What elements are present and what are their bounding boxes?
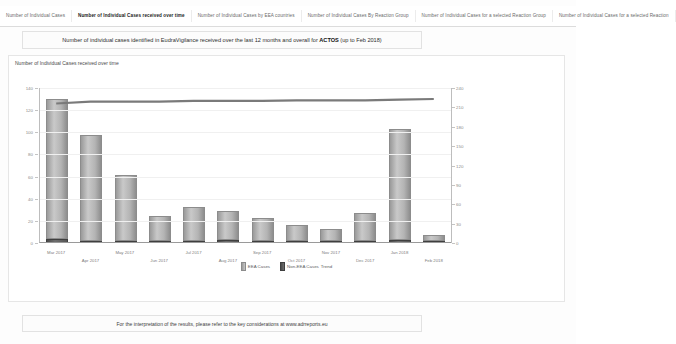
right-axis-tick-mark xyxy=(452,166,455,167)
right-axis-tick-label: 180 xyxy=(456,124,478,129)
grid-line xyxy=(40,221,451,222)
left-axis-tick-label: 60 xyxy=(13,174,33,179)
page-title-prefix: Number of individual cases identified in… xyxy=(62,37,319,43)
bar-non-eea-cases[interactable] xyxy=(423,241,445,243)
legend-label-trend: Trend xyxy=(321,264,332,269)
bar-eea-cases[interactable] xyxy=(46,99,68,239)
left-axis-tick-mark xyxy=(35,221,38,222)
grid-line xyxy=(40,132,451,133)
right-axis-tick-label: 90 xyxy=(456,182,478,187)
bar-non-eea-cases[interactable] xyxy=(320,241,342,243)
right-axis-tick-label: 120 xyxy=(456,163,478,168)
right-axis-tick-label: 150 xyxy=(456,144,478,149)
grid-line xyxy=(40,177,451,178)
bar-eea-cases[interactable] xyxy=(389,129,411,240)
footer-note: For the interpretation of the results, p… xyxy=(117,321,328,327)
bar-eea-cases[interactable] xyxy=(80,135,102,240)
right-axis-tick-mark xyxy=(452,204,455,205)
left-axis-tick-mark xyxy=(35,110,38,111)
legend-swatch-eea-icon xyxy=(241,262,246,271)
bar-non-eea-cases[interactable] xyxy=(286,241,308,243)
left-axis-tick-label: 80 xyxy=(13,152,33,157)
right-axis-tick-label: 60 xyxy=(456,202,478,207)
bar-non-eea-cases[interactable] xyxy=(46,239,68,242)
right-axis-tick-label: 240 xyxy=(456,86,478,91)
bar-non-eea-cases[interactable] xyxy=(252,241,274,243)
page-title-product: ACTOS xyxy=(319,37,338,43)
right-axis-tick-mark xyxy=(452,107,455,108)
tab-cases-received-over-time[interactable]: Number of Individual Cases received over… xyxy=(72,10,192,21)
right-axis-tick-mark xyxy=(452,127,455,128)
legend-label-eea: EEA Cases xyxy=(248,264,270,269)
bar-eea-cases[interactable] xyxy=(183,207,205,240)
x-axis-tick-label: May 2017 xyxy=(115,250,134,255)
grid-line xyxy=(40,110,451,111)
right-axis-tick-mark xyxy=(452,88,455,89)
bar-non-eea-cases[interactable] xyxy=(389,240,411,242)
x-axis-tick-label: Nov 2017 xyxy=(322,250,340,255)
x-axis-tick-label: Jan 2018 xyxy=(391,250,409,255)
chart-subtitle: Number of Individual Cases received over… xyxy=(15,60,119,66)
right-axis-tick-mark xyxy=(452,185,455,186)
legend-swatch-non-eea-icon xyxy=(280,262,285,271)
bar-non-eea-cases[interactable] xyxy=(149,241,171,243)
page-title: Number of individual cases identified in… xyxy=(62,37,381,43)
right-axis-tick-label: 30 xyxy=(456,221,478,226)
x-axis-tick-label: Sep 2017 xyxy=(253,250,271,255)
bar-eea-cases[interactable] xyxy=(217,211,239,240)
tab-cases-selected-reaction[interactable]: Number of Individual Cases for a selecte… xyxy=(553,10,676,21)
legend-item-non-eea: Non-EEA Cases Trend xyxy=(280,262,332,271)
right-axis-tick-mark xyxy=(452,243,455,244)
right-axis-tick-mark xyxy=(452,146,455,147)
left-axis-tick-label: 0 xyxy=(13,241,33,246)
left-axis-tick-label: 20 xyxy=(13,218,33,223)
left-axis-tick-label: 120 xyxy=(13,108,33,113)
chart-panel: Number of Individual Cases received over… xyxy=(8,55,565,302)
tab-cases-by-reaction-group[interactable]: Number of Individual Cases By Reaction G… xyxy=(302,10,416,21)
bar-non-eea-cases[interactable] xyxy=(80,241,102,243)
left-axis-tick-mark xyxy=(35,177,38,178)
page-title-banner: Number of individual cases identified in… xyxy=(22,31,422,49)
bar-eea-cases[interactable] xyxy=(149,216,171,240)
left-axis-tick-label: 140 xyxy=(13,86,33,91)
left-axis-tick-label: 40 xyxy=(13,196,33,201)
left-axis-tick-mark xyxy=(35,243,38,244)
bar-eea-cases[interactable] xyxy=(354,213,376,241)
bar-eea-cases[interactable] xyxy=(115,175,137,240)
tab-bar: Number of Individual Cases Number of Ind… xyxy=(0,6,576,27)
grid-line xyxy=(40,199,451,200)
plot-canvas xyxy=(39,88,451,243)
bar-non-eea-cases[interactable] xyxy=(217,240,239,242)
tab-number-of-individual-cases[interactable]: Number of Individual Cases xyxy=(0,10,72,21)
bar-eea-cases[interactable] xyxy=(286,225,308,241)
bar-eea-cases[interactable] xyxy=(320,229,342,240)
plot-area: 020406080100120140 030609012015018021024… xyxy=(9,74,564,274)
legend-label-non-eea: Non-EEA Cases xyxy=(287,264,319,269)
right-axis-tick-label: 0 xyxy=(456,241,478,246)
tab-cases-by-eea-countries[interactable]: Number of Individual Cases by EEA countr… xyxy=(192,10,302,21)
grid-line xyxy=(40,88,451,89)
left-axis-tick-mark xyxy=(35,199,38,200)
bar-non-eea-cases[interactable] xyxy=(354,241,376,243)
left-axis-tick-mark xyxy=(35,132,38,133)
legend-item-eea: EEA Cases xyxy=(241,262,270,271)
left-axis-tick-mark xyxy=(35,88,38,89)
left-axis-tick-mark xyxy=(35,154,38,155)
right-axis-tick-label: 210 xyxy=(456,105,478,110)
tab-cases-selected-reaction-group[interactable]: Number of Individual Cases for a selecte… xyxy=(416,10,553,21)
chart-legend: EEA Cases Non-EEA Cases Trend xyxy=(9,259,564,273)
bar-non-eea-cases[interactable] xyxy=(115,241,137,243)
page-title-suffix: (up to Feb 2018) xyxy=(339,37,382,43)
grid-line xyxy=(40,154,451,155)
x-axis-tick-label: Mar 2017 xyxy=(47,250,65,255)
right-axis-tick-mark xyxy=(452,224,455,225)
x-axis-tick-label: Jul 2017 xyxy=(185,250,201,255)
bar-non-eea-cases[interactable] xyxy=(183,241,205,243)
left-axis-tick-label: 100 xyxy=(13,130,33,135)
footer-banner: For the interpretation of the results, p… xyxy=(22,315,422,332)
